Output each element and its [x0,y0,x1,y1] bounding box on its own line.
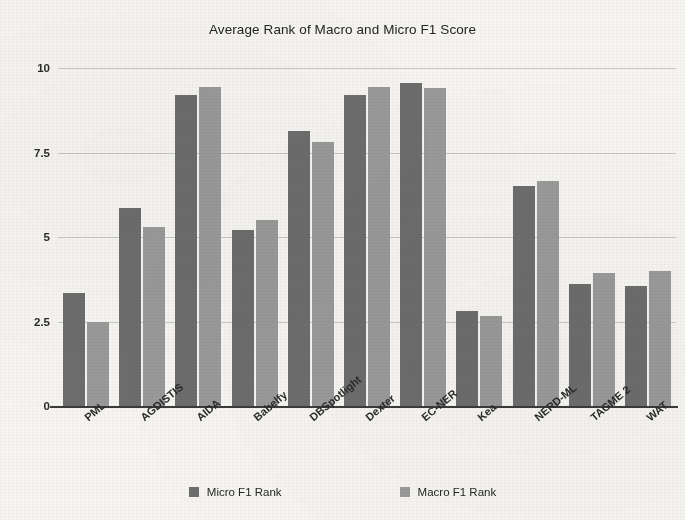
x-axis-tick-label: EC-NER [419,414,427,423]
x-axis-tick-label: TAGME 2 [588,414,596,423]
legend-swatch-icon [400,487,410,497]
y-axis-tick-label: 7.5 [6,147,50,159]
bar-macro [593,273,615,407]
x-axis-tick-label: WAT [644,414,652,423]
bar-macro [368,87,390,406]
legend-item[interactable]: Micro F1 Rank [189,486,282,498]
bar-group [513,68,559,406]
bar-group [288,68,334,406]
bar-micro [288,131,310,406]
bar-macro [256,220,278,406]
x-axis-tick-label: NERD-ML [532,414,540,423]
bar-macro [424,88,446,406]
bar-group [456,68,502,406]
bar-micro [344,95,366,406]
x-axis-tick-label: Dexter [363,414,371,423]
x-axis-tick-label: Babelfy [251,414,259,423]
y-axis-tick-label: 5 [6,231,50,243]
bar-group [119,68,165,406]
bar-group [625,68,671,406]
bar-macro [87,322,109,407]
x-axis-tick-label: Kea [475,414,483,423]
bar-macro [649,271,671,406]
plot-area [58,68,676,406]
bar-micro [63,293,85,406]
bar-micro [456,311,478,406]
x-axis-tick-label: AGDISTIS [138,414,146,423]
x-axis-tick-label: PML [82,414,90,423]
bar-macro [480,316,502,406]
legend-label: Micro F1 Rank [207,486,282,498]
bar-macro [143,227,165,406]
x-axis-tick-label: AIDA [194,414,202,423]
bar-micro [175,95,197,406]
chart-legend: Micro F1 RankMacro F1 Rank [0,486,685,498]
chart-title: Average Rank of Macro and Micro F1 Score [0,22,685,37]
bar-group [175,68,221,406]
bar-group [344,68,390,406]
legend-item[interactable]: Macro F1 Rank [400,486,497,498]
bar-macro [199,87,221,406]
bar-micro [400,83,422,406]
bar-group [63,68,109,406]
legend-swatch-icon [189,487,199,497]
y-axis-tick-label: 10 [6,62,50,74]
bar-macro [312,142,334,406]
y-axis-tick-label: 0 [6,400,50,412]
y-axis-tick-labels: 02.557.510 [0,0,50,520]
x-axis-tick-label: DBSpotlight [307,414,315,423]
legend-label: Macro F1 Rank [418,486,497,498]
chart-figure: Average Rank of Macro and Micro F1 Score… [0,0,685,520]
bar-group [232,68,278,406]
bar-macro [537,181,559,406]
y-axis-tick-label: 2.5 [6,316,50,328]
bar-micro [513,186,535,406]
bar-micro [119,208,141,406]
bar-micro [232,230,254,406]
bar-group [569,68,615,406]
bar-group [400,68,446,406]
